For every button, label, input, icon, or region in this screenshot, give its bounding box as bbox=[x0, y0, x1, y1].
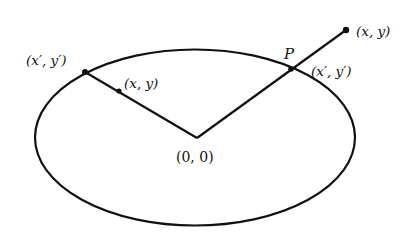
diagram-canvas: (x′, y′) (x, y) P (x′, y′) (x, y) (0, 0) bbox=[0, 0, 420, 235]
right-outer-point bbox=[343, 27, 349, 33]
right-boundary-point-p bbox=[288, 66, 294, 72]
left-inner-point bbox=[116, 88, 121, 93]
label-right-outer: (x, y) bbox=[356, 23, 390, 39]
label-right-boundary: (x′, y′) bbox=[311, 63, 352, 79]
left-boundary-point bbox=[82, 69, 88, 75]
label-origin: (0, 0) bbox=[176, 149, 214, 165]
label-left-boundary: (x′, y′) bbox=[26, 52, 67, 68]
label-point-p: P bbox=[283, 45, 295, 63]
label-left-inner: (x, y) bbox=[124, 75, 158, 91]
diagram-svg: (x′, y′) (x, y) P (x′, y′) (x, y) (0, 0) bbox=[0, 0, 420, 235]
